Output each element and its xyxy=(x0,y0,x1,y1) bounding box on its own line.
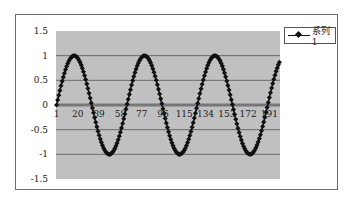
y-tick-label: -1 xyxy=(39,149,48,159)
y-tick-label: 0.5 xyxy=(34,75,49,85)
y-tick-label: -0.5 xyxy=(31,125,49,135)
y-axis-ticks: 1.510.50-0.5-1-1.5 xyxy=(31,26,49,184)
y-tick-label: 1 xyxy=(42,51,48,61)
y-tick-label: 1.5 xyxy=(34,26,49,36)
x-tick-label: 134 xyxy=(197,109,214,119)
x-tick-label: 1 xyxy=(54,109,60,119)
x-tick-label: 77 xyxy=(136,109,148,119)
legend-label: 系列1 xyxy=(312,24,335,47)
x-tick-label: 115 xyxy=(176,109,193,119)
legend: 系列1 xyxy=(284,27,336,44)
legend-swatch-icon xyxy=(288,31,310,41)
x-tick-label: 172 xyxy=(239,109,256,119)
y-tick-label: -1.5 xyxy=(31,174,49,184)
y-tick-label: 0 xyxy=(42,100,48,110)
x-tick-label: 20 xyxy=(72,109,84,119)
